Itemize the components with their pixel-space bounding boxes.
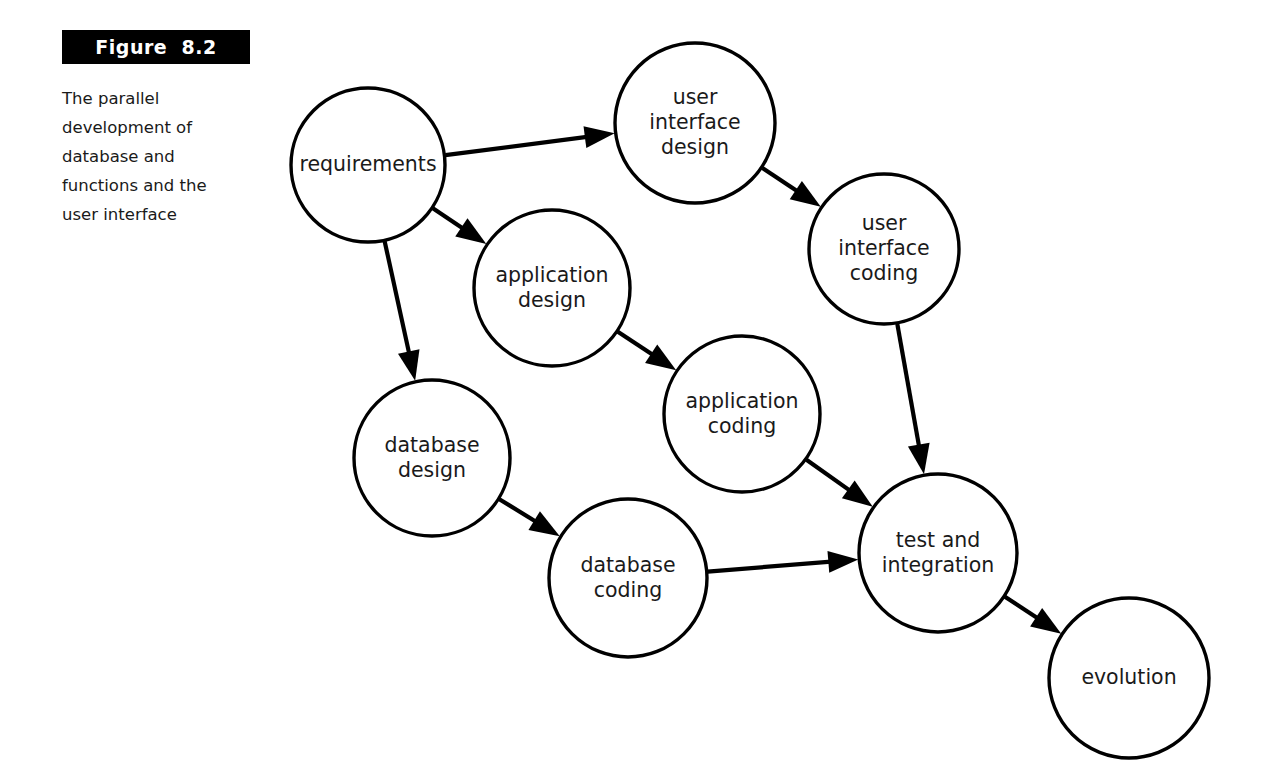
- diagram-nodes-layer: requirementsuserinterfacedesignuserinter…: [291, 43, 1209, 758]
- diagram-edge-app-design-to-app-coding: [618, 332, 676, 371]
- parallel-development-flow-diagram: requirementsuserinterfacedesignuserinter…: [0, 0, 1261, 764]
- node-label-requirements: requirements: [299, 152, 436, 176]
- diagram-node-ui-coding[interactable]: userinterfacecoding: [809, 174, 959, 324]
- node-label-db-coding: databasecoding: [580, 553, 675, 602]
- diagram-edge-db-coding-to-test-integration: [708, 551, 859, 573]
- diagram-edge-ui-coding-to-test-integration: [897, 324, 929, 474]
- diagram-edge-ui-design-to-ui-coding: [762, 168, 820, 207]
- diagram-node-test-integration[interactable]: test andintegration: [859, 474, 1017, 632]
- diagram-node-db-coding[interactable]: databasecoding: [549, 499, 707, 657]
- diagram-edge-db-design-to-db-coding: [499, 499, 559, 536]
- diagram-edge-test-integration-to-evolution: [1005, 597, 1061, 634]
- diagram-node-ui-design[interactable]: userinterfacedesign: [615, 43, 775, 203]
- diagram-node-requirements[interactable]: requirements: [291, 88, 445, 242]
- diagram-edge-requirements-to-db-design: [385, 241, 420, 381]
- diagram-node-db-design[interactable]: databasedesign: [354, 380, 510, 536]
- diagram-edge-app-coding-to-test-integration: [806, 460, 872, 507]
- diagram-node-evolution[interactable]: evolution: [1049, 598, 1209, 758]
- diagram-edge-requirements-to-ui-design: [445, 126, 614, 155]
- node-label-db-design: databasedesign: [384, 433, 479, 482]
- node-label-test-integration: test andintegration: [882, 528, 995, 577]
- node-label-evolution: evolution: [1081, 665, 1176, 689]
- diagram-edge-requirements-to-app-design: [433, 208, 486, 244]
- diagram-node-app-design[interactable]: applicationdesign: [474, 210, 630, 366]
- diagram-node-app-coding[interactable]: applicationcoding: [664, 336, 820, 492]
